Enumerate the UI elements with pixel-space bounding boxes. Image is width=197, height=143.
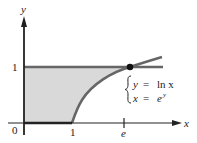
equation-1-lhs: y	[132, 78, 138, 90]
equation-1-rhs: ln x	[157, 78, 174, 90]
equation-2-lhs: x	[132, 92, 138, 104]
origin-label: 0	[12, 124, 18, 136]
intersection-point	[127, 64, 134, 71]
y-tick-label-1: 1	[12, 61, 18, 73]
shaded-region	[24, 67, 130, 123]
y-axis-arrow-icon	[21, 16, 27, 27]
equation-2-rhs: e	[157, 92, 162, 104]
region-diagram: y x 0 1 1 e y = ln x x = e y	[0, 0, 197, 143]
equation-2-eq: =	[143, 92, 149, 104]
x-axis-label: x	[183, 117, 189, 129]
equation-1-eq: =	[143, 78, 149, 90]
x-axis-arrow-icon	[172, 120, 182, 126]
brace-icon	[125, 76, 131, 103]
y-axis-label: y	[20, 3, 26, 15]
equation-2-rhs-superscript: y	[162, 91, 167, 99]
x-tick-label-1: 1	[70, 126, 76, 138]
x-tick-label-e: e	[121, 127, 126, 139]
